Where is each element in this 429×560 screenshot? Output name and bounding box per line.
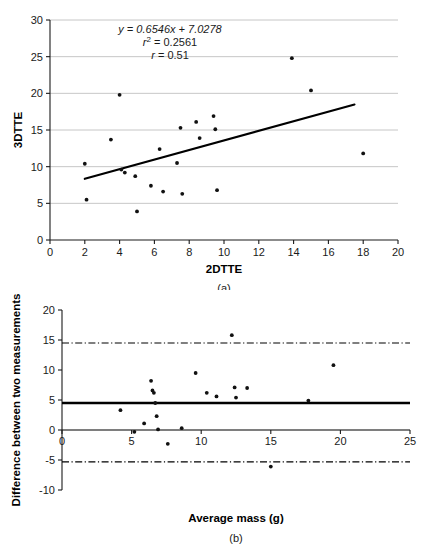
x-axis-tick-label: 4 bbox=[117, 246, 123, 258]
data-point bbox=[85, 198, 89, 202]
data-point bbox=[152, 391, 156, 395]
panel-a-y-axis-title: 3DTTE bbox=[12, 111, 24, 148]
y-axis-tick-label: 20 bbox=[43, 304, 55, 316]
y-axis-tick-label: 20 bbox=[31, 87, 43, 99]
panel-a-svg: 05101520253002468101214161820y = 0.6546x… bbox=[0, 0, 429, 290]
panel-b-caption: (b) bbox=[229, 532, 242, 544]
panel-b-x-axis-title: Average mass (g) bbox=[188, 512, 284, 524]
r-value-label: r = 0.51 bbox=[151, 49, 189, 61]
x-axis-tick-label: 10 bbox=[218, 246, 230, 258]
y-axis-tick-label: 5 bbox=[49, 394, 55, 406]
panel-a-caption: (a) bbox=[217, 282, 230, 290]
bland-altman-and-scatter-figure: 05101520253002468101214161820y = 0.6546x… bbox=[0, 0, 429, 560]
data-point bbox=[179, 126, 183, 130]
y-axis-tick-label: -10 bbox=[39, 484, 55, 496]
data-point bbox=[166, 442, 170, 446]
y-axis-tick-label: 15 bbox=[31, 124, 43, 136]
data-point bbox=[180, 192, 184, 196]
x-axis-tick-label: 25 bbox=[404, 435, 416, 447]
x-axis-tick-label: 2 bbox=[82, 246, 88, 258]
y-axis-tick-label: 0 bbox=[37, 234, 43, 246]
data-point bbox=[215, 188, 219, 192]
r-squared-label: r2 = 0.2561 bbox=[143, 35, 197, 49]
data-point bbox=[212, 114, 216, 118]
x-axis-tick-label: 15 bbox=[265, 435, 277, 447]
panel-b-plot-area: -10-5051015200510152025Average mass (g)D… bbox=[10, 294, 416, 544]
x-axis-tick-label: 14 bbox=[287, 246, 299, 258]
x-axis-tick-label: 5 bbox=[129, 435, 135, 447]
panel-b-y-axis-title: Difference between two measurements bbox=[10, 294, 22, 507]
r-squared-value: = 0.2561 bbox=[151, 36, 197, 48]
x-axis-tick-label: 16 bbox=[322, 246, 334, 258]
y-axis-tick-label: 25 bbox=[31, 51, 43, 63]
data-point bbox=[180, 426, 184, 430]
data-point bbox=[109, 138, 113, 142]
data-point bbox=[142, 422, 146, 426]
data-point bbox=[133, 174, 137, 178]
data-point bbox=[118, 93, 122, 97]
data-point bbox=[205, 391, 209, 395]
data-point bbox=[123, 171, 127, 175]
data-point bbox=[155, 414, 159, 418]
data-point bbox=[119, 408, 123, 412]
data-point bbox=[119, 168, 123, 172]
regression-equation-label: y = 0.6546x + 7.0278 bbox=[117, 23, 222, 35]
data-point bbox=[83, 162, 87, 166]
y-axis-tick-label: 5 bbox=[37, 197, 43, 209]
data-point bbox=[156, 428, 160, 432]
x-axis-tick-label: 0 bbox=[47, 246, 53, 258]
data-point bbox=[198, 136, 202, 140]
data-point bbox=[230, 333, 234, 337]
data-point bbox=[332, 363, 336, 367]
x-axis-tick-label: 6 bbox=[151, 246, 157, 258]
data-point bbox=[149, 379, 153, 383]
panel-b-bland-altman: -10-5051015200510152025Average mass (g)D… bbox=[0, 290, 429, 560]
y-axis-tick-label: 15 bbox=[43, 334, 55, 346]
data-point bbox=[233, 386, 237, 390]
panel-a-scatter-regression: 05101520253002468101214161820y = 0.6546x… bbox=[0, 0, 429, 290]
data-point bbox=[361, 152, 365, 156]
y-axis-tick-label: 10 bbox=[43, 364, 55, 376]
data-point bbox=[175, 161, 179, 165]
data-point bbox=[194, 371, 198, 375]
x-axis-tick-label: 12 bbox=[253, 246, 265, 258]
regression-line bbox=[85, 104, 355, 178]
data-point bbox=[269, 465, 273, 469]
panel-a-x-axis-title: 2DTTE bbox=[206, 263, 243, 275]
panel-a-plot-area: 05101520253002468101214161820y = 0.6546x… bbox=[12, 14, 404, 290]
y-axis-tick-label: 30 bbox=[31, 14, 43, 26]
data-point bbox=[213, 127, 217, 131]
y-axis-tick-label: 10 bbox=[31, 161, 43, 173]
data-point bbox=[153, 401, 157, 405]
x-axis-tick-label: 20 bbox=[334, 435, 346, 447]
data-point bbox=[132, 430, 136, 434]
x-axis-tick-label: 8 bbox=[186, 246, 192, 258]
data-point bbox=[245, 386, 249, 390]
data-point bbox=[309, 89, 313, 93]
x-axis-tick-label: 20 bbox=[392, 246, 404, 258]
data-point bbox=[306, 399, 310, 403]
data-point bbox=[290, 56, 294, 60]
r-number: = 0.51 bbox=[155, 49, 189, 61]
data-point bbox=[194, 120, 198, 124]
x-axis-tick-label: 10 bbox=[195, 435, 207, 447]
y-axis-tick-label: 0 bbox=[49, 424, 55, 436]
y-axis-tick-label: -5 bbox=[45, 454, 55, 466]
x-axis-tick-label: 18 bbox=[357, 246, 369, 258]
data-point bbox=[215, 395, 219, 399]
data-point bbox=[149, 184, 153, 188]
data-point bbox=[234, 396, 238, 400]
data-point bbox=[135, 210, 139, 214]
x-axis-tick-label: 0 bbox=[59, 435, 65, 447]
data-point bbox=[161, 190, 165, 194]
panel-b-svg: -10-5051015200510152025Average mass (g)D… bbox=[0, 290, 429, 560]
data-point bbox=[158, 147, 162, 151]
